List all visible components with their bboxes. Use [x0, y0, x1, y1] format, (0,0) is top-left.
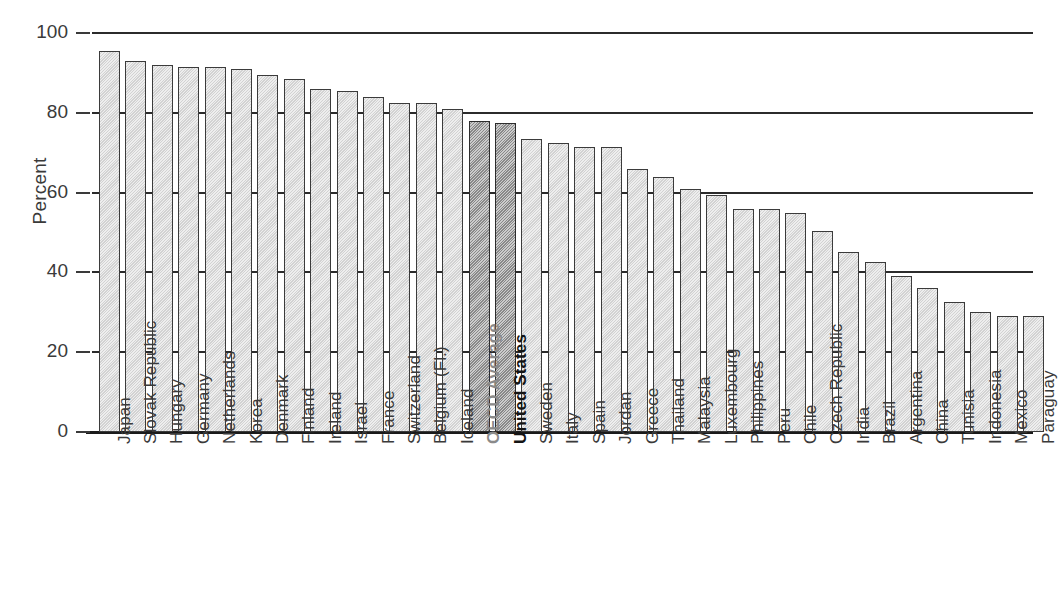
- x-tick-label: Hungary: [168, 379, 185, 444]
- x-tick-label: Iceland: [459, 388, 476, 444]
- bar: [363, 97, 384, 432]
- x-tick-label: Chile: [802, 405, 819, 444]
- x-tick-label: Paraguay: [1040, 370, 1057, 444]
- bar: [99, 51, 120, 432]
- x-tick-label: China: [934, 399, 951, 444]
- x-tick-label: Sweden: [538, 382, 555, 444]
- x-tick-label: Spain: [591, 400, 608, 444]
- x-tick-label: France: [380, 390, 397, 444]
- x-tick-label: Israel: [353, 402, 370, 444]
- x-tick-label: Greece: [644, 388, 661, 444]
- x-tick-label: Italy: [564, 412, 581, 444]
- x-tick-label: Brazil: [881, 401, 898, 444]
- x-tick-label: Czech Republic: [828, 324, 845, 444]
- bar: [574, 147, 595, 432]
- bar: [310, 89, 331, 432]
- x-tick-label: Philippines: [749, 361, 766, 444]
- x-tick-label: Ireland: [327, 391, 344, 444]
- x-tick-label: Luxembourg: [723, 348, 740, 444]
- x-tick-label: Belgium (Fl.): [432, 346, 449, 444]
- x-tick-label: Tunisia: [960, 389, 977, 444]
- bar: [337, 91, 358, 432]
- x-tick-label: Germany: [195, 373, 212, 444]
- x-axis-labels: JapanSlovak RepublicHungaryGermanyNether…: [0, 440, 1059, 614]
- x-tick-label: United States: [512, 334, 529, 444]
- x-tick-label: Netherlands: [221, 351, 238, 444]
- x-tick-label: India: [855, 407, 872, 444]
- x-tick-label: Thailand: [670, 378, 687, 444]
- x-tick-label: Japan: [116, 397, 133, 444]
- x-tick-label: Switzerland: [406, 355, 423, 444]
- x-tick-label: Slovak Republic: [142, 321, 159, 444]
- x-tick-label: Malaysia: [696, 376, 713, 444]
- bar: [601, 147, 622, 432]
- bar: [785, 213, 806, 432]
- x-tick-label: OECD Average: [485, 323, 502, 444]
- x-tick-label: Peru: [776, 408, 793, 444]
- bar-chart: Percent 020406080100 JapanSlovak Republi…: [0, 0, 1059, 614]
- x-tick-label: Denmark: [274, 374, 291, 444]
- x-tick-label: Finland: [300, 388, 317, 444]
- x-tick-label: Korea: [248, 398, 265, 444]
- x-tick-label: Argentina: [908, 370, 925, 444]
- x-tick-label: Indonesia: [987, 369, 1004, 444]
- x-tick-label: Jordan: [617, 391, 634, 444]
- x-tick-label: Mexico: [1013, 390, 1030, 444]
